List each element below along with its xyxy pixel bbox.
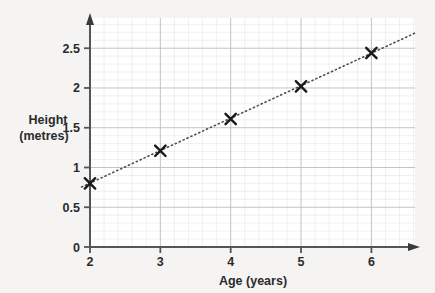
y-axis-title-line1: Height xyxy=(29,113,69,127)
x-axis-tick-label: 6 xyxy=(368,255,375,269)
y-axis-tick-label: 2 xyxy=(73,81,80,95)
x-axis-tick-label: 4 xyxy=(227,255,234,269)
scatter-chart: 00.511.522.5 23456 Age (years) Height (m… xyxy=(0,0,435,293)
x-axis-tick-label: 2 xyxy=(87,255,94,269)
chart-container: 00.511.522.5 23456 Age (years) Height (m… xyxy=(0,0,435,293)
y-axis-tick-label: 2.5 xyxy=(63,42,80,56)
y-axis-tick-label: 0.5 xyxy=(63,201,80,215)
y-axis-tick-label: 1 xyxy=(73,161,80,175)
x-axis-tick-label: 5 xyxy=(298,255,305,269)
plot-area-background xyxy=(90,18,415,247)
x-axis-title: Age (years) xyxy=(219,274,287,288)
y-axis-title-line2: (metres) xyxy=(19,129,68,143)
x-axis-tick-label: 3 xyxy=(157,255,164,269)
y-axis-tick-label: 0 xyxy=(73,241,80,255)
